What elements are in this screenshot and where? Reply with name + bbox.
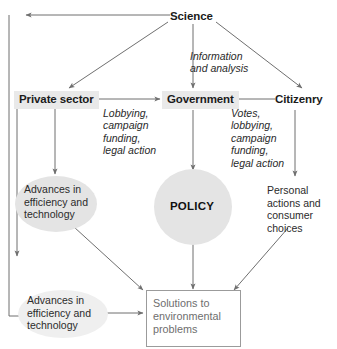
edge-label-private-sector-to-government: Lobbying, campaign funding, legal action [103, 107, 156, 157]
node-science[interactable]: Science [168, 8, 215, 26]
edge-advances-upper-to-solutions [74, 227, 143, 290]
node-advances-upper-label: Advances in efficiency and technology [24, 183, 96, 221]
diagram-canvas: Science Private sector Government Citize… [0, 0, 337, 349]
node-advances-lower-label: Advances in efficiency and technology [27, 294, 103, 332]
rail-feedback-outer [9, 15, 33, 316]
edge-label-science-to-government: Information and analysis [190, 50, 248, 75]
node-government[interactable]: Government [162, 91, 239, 109]
edge-personal-actions-to-solutions [234, 228, 288, 290]
node-private-sector[interactable]: Private sector [14, 91, 99, 109]
edge-science-to-private-sector [69, 22, 168, 88]
node-solutions-label: Solutions to environmental problems [153, 297, 239, 336]
node-personal-actions-label: Personal actions and consumer choices [267, 184, 333, 234]
node-policy-label: POLICY [170, 200, 214, 212]
edge-label-citizenry-to-government: Votes, lobbying, campaign funding, legal… [231, 107, 284, 169]
